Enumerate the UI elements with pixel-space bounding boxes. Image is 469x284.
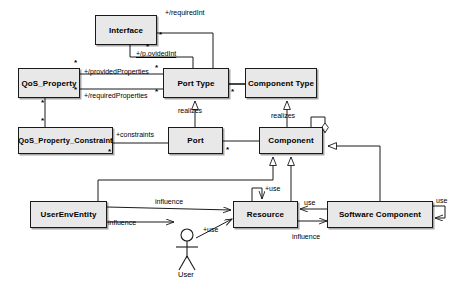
edge-label-influence-left: influence [108, 219, 136, 226]
uml-node-qos-property[interactable]: QoS_Property [18, 68, 80, 98]
multiplicity-qos-bottom-right: * [74, 86, 77, 94]
uml-node-label: UserEnvEntity [41, 210, 97, 219]
uml-node-label: Interface [109, 26, 143, 35]
edge-label-required-properties: +/requiredProperties [84, 92, 148, 99]
edge-label-realizes-port: realizes [178, 107, 202, 114]
multiplicity-porttype-left-top: * [155, 64, 158, 72]
uml-node-label: Port [187, 136, 203, 145]
edge-label-required-int: +/requiredInt [165, 9, 205, 16]
multiplicity-porttype-left-bottom: * [155, 88, 158, 96]
uml-node-label: Component Type [248, 79, 314, 88]
uml-node-label: QoS_Property [22, 79, 77, 88]
uml-node-label: QoS_Property_Constraint [18, 136, 112, 145]
multiplicity-qosc-bottom-right: * [108, 148, 111, 156]
edge-label-realizes-component: realizes [271, 112, 295, 119]
uml-node-port[interactable]: Port [168, 127, 223, 154]
uml-diagram-canvas: Interface QoS_Property Port Type Compone… [0, 0, 469, 284]
uml-node-component-type[interactable]: Component Type [245, 68, 317, 98]
multiplicity-port-right: * [226, 146, 229, 154]
edge-label-use-resource-self: +use [265, 185, 280, 192]
multiplicity-qos-bottom: * [41, 99, 44, 107]
edge-label-use-user: +use [203, 226, 218, 233]
uml-node-software-component[interactable]: Software Component [327, 201, 433, 228]
edge-label-provided-int: +/p.ovidedInt [136, 50, 176, 57]
uml-node-label: Component [268, 136, 313, 145]
uml-node-component[interactable]: Component [259, 127, 323, 154]
uml-node-label: Resource [247, 210, 284, 219]
edge-label-use-sw-self: use [436, 197, 447, 204]
uml-node-qos-property-constraint[interactable]: QoS_Property_Constraint [18, 127, 113, 154]
edge-label-provided-properties: +/providedProperties [84, 68, 149, 75]
uml-node-label: Software Component [339, 210, 421, 219]
multiplicity-porttype-right: * [231, 88, 234, 96]
user-actor-label: User [178, 270, 194, 279]
uml-node-port-type[interactable]: Port Type [163, 68, 229, 98]
multiplicity-interface-bottom: * [146, 43, 149, 51]
user-actor-glyph [176, 229, 198, 270]
uml-node-resource[interactable]: Resource [233, 201, 298, 228]
multiplicity-qosc-top: * [41, 117, 44, 125]
uml-node-userenventity[interactable]: UserEnvEntity [30, 201, 107, 228]
uml-node-label: Port Type [177, 79, 214, 88]
multiplicity-interface-right: * [159, 31, 162, 39]
edge-label-constraints: +constraints [116, 131, 154, 138]
edge-label-use-sw-to-resource: use [304, 199, 315, 206]
uml-node-interface[interactable]: Interface [95, 15, 157, 45]
edge-label-influence-bottom: influence [292, 233, 320, 240]
edge-label-influence-top: influence [155, 198, 183, 205]
multiplicity-qos-top-right: * [74, 59, 77, 67]
